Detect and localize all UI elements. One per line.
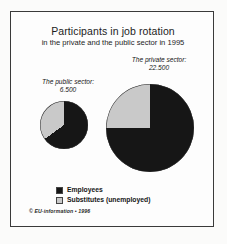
legend-label-employees: Employees	[67, 186, 103, 194]
legend-swatch-icon-substitutes	[56, 197, 63, 204]
legend-item-substitutes: Substitutes (unemployed)	[56, 196, 196, 204]
public-sector-label-name: The public sector:	[42, 78, 94, 85]
pie-chart-private-sector	[106, 84, 194, 172]
pie-chart-public-sector	[40, 101, 88, 149]
copyright-credit: © EU-information • 1996	[29, 208, 90, 214]
private-sector-label-name: The private sector:	[132, 56, 187, 63]
public-sector-label: The public sector: 6.500	[29, 78, 107, 93]
chart-frame: Participants in job rotation in the priv…	[10, 11, 214, 227]
chart-image: Participants in job rotation in the priv…	[0, 0, 227, 244]
legend-swatch-icon-employees	[56, 187, 63, 194]
chart-subtitle: in the private and the public sector in …	[11, 38, 215, 48]
legend-item-employees: Employees	[56, 186, 196, 194]
chart-title: Participants in job rotation	[11, 25, 215, 37]
private-sector-label: The private sector: 22.500	[109, 56, 209, 71]
chart-legend: Employees Substitutes (unemployed)	[56, 186, 196, 206]
legend-label-substitutes: Substitutes (unemployed)	[67, 196, 150, 204]
private-sector-label-value: 22.500	[109, 64, 209, 72]
public-sector-label-value: 6.500	[29, 86, 107, 94]
title-block: Participants in job rotation in the priv…	[11, 25, 215, 48]
